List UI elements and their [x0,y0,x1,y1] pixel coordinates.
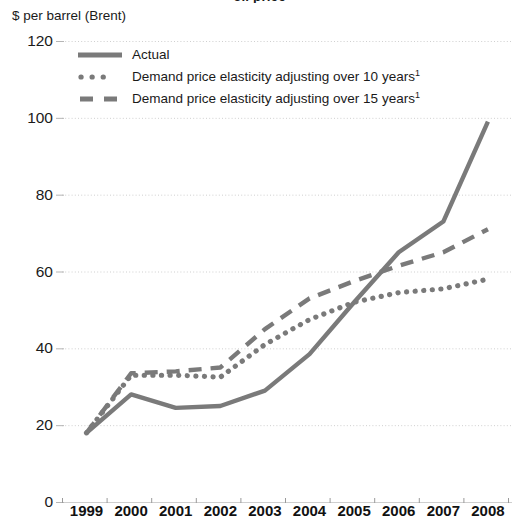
x-axis-label-2002: 2002 [204,503,237,519]
x-axis-label-1999: 1999 [70,503,103,519]
solid-line-swatch [77,48,123,62]
legend-item-1: Actual [77,44,477,66]
y-axis-label-100: 100 [0,110,53,126]
series-line-solid [87,122,488,433]
dotted-line-swatch [77,70,123,84]
x-axis-label-2006: 2006 [382,503,415,519]
series-line-dashed [87,229,488,433]
y-axis-label-20: 20 [0,417,53,433]
dashed-line-swatch [77,92,123,106]
y-axis-label-80: 80 [0,187,53,203]
data-series-layer [87,122,488,433]
legend-footnote-marker: 1 [415,68,420,78]
legend-label-2: Demand price elasticity adjusting over 1… [132,70,420,84]
legend-item-3: Demand price elasticity adjusting over 1… [77,88,477,110]
x-axis-label-2003: 2003 [248,503,281,519]
y-axis-label-120: 120 [0,33,53,49]
chart-legend: ActualDemand price elasticity adjusting … [77,44,477,110]
x-axis-label-2001: 2001 [159,503,192,519]
x-axis-label-2000: 2000 [114,503,147,519]
y-axis-label-60: 60 [0,264,53,280]
y-axis-label-40: 40 [0,340,53,356]
x-axis-label-2004: 2004 [293,503,326,519]
legend-label-1: Actual [132,48,170,62]
x-axis-label-2008: 2008 [471,503,504,519]
series-line-dotted [87,279,488,433]
x-axis-label-2007: 2007 [427,503,460,519]
legend-label-3: Demand price elasticity adjusting over 1… [132,92,420,106]
oil-price-line-chart: oil price $ per barrel (Brent) 020406080… [0,0,519,523]
x-axis-label-2005: 2005 [337,503,370,519]
legend-footnote-marker: 1 [415,90,420,100]
y-axis-label-0: 0 [0,494,53,510]
gridlines [56,42,512,503]
legend-item-2: Demand price elasticity adjusting over 1… [77,66,477,88]
